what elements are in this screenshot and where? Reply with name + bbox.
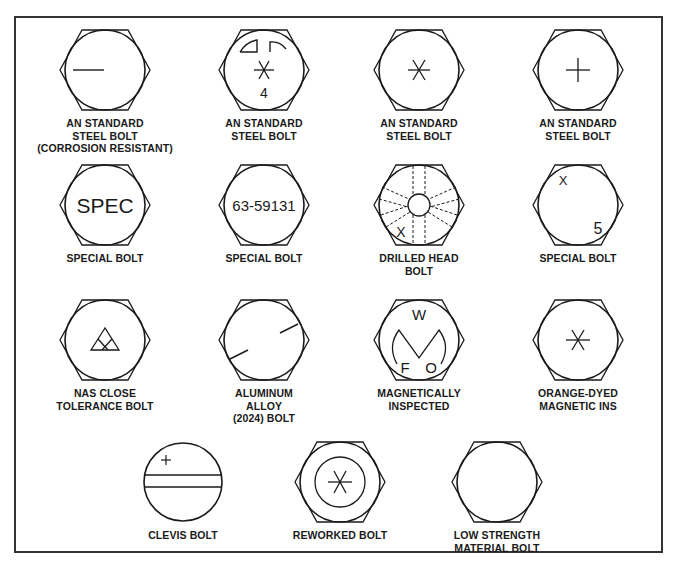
hex-bolt-reworked-icon: [294, 440, 386, 524]
bolt-nas-close-tolerance: NAS CLOSE TOLERANCE BOLT: [25, 298, 185, 412]
bolt-label: SPECIAL BOLT: [498, 252, 658, 265]
svg-text:4: 4: [260, 85, 268, 101]
hex-bolt-x5-icon: X 5: [532, 163, 624, 247]
hex-bolt-asterisk-icon: [532, 298, 624, 382]
bolt-orange-dyed-magnetic: ORANGE-DYED MAGNETIC INS: [498, 298, 658, 412]
bolt-label: NAS CLOSE TOLERANCE BOLT: [25, 387, 185, 412]
hex-bolt-two-dash-icon: [218, 298, 310, 382]
bolt-drilled-head: X DRILLED HEAD BOLT: [339, 163, 499, 277]
bolt-label: CLEVIS BOLT: [103, 529, 263, 542]
svg-text:O: O: [425, 359, 437, 376]
bolt-an-standard-asterisk: AN STANDARD STEEL BOLT: [339, 28, 499, 142]
bolt-reworked: REWORKED BOLT: [260, 440, 420, 542]
bolt-special-x5: X 5 SPECIAL BOLT: [498, 163, 658, 265]
bolt-aluminum-alloy: ALUMINUM ALLOY (2024) BOLT: [184, 298, 344, 425]
hex-bolt-drilled-icon: X: [373, 163, 465, 247]
bolt-label: SPECIAL BOLT: [184, 252, 344, 265]
round-bolt-slot-icon: [137, 440, 229, 524]
hex-bolt-magnetic-icon: W F O: [373, 298, 465, 382]
hex-bolt-triangle-icon: [59, 298, 151, 382]
svg-text:63-59131: 63-59131: [232, 197, 295, 214]
bolt-an-standard-corrosion-resistant: AN STANDARD STEEL BOLT (CORROSION RESIST…: [25, 28, 185, 155]
bolt-label: AN STANDARD STEEL BOLT: [339, 117, 499, 142]
bolt-clevis: CLEVIS BOLT: [103, 440, 263, 542]
bolt-an-standard-cross: AN STANDARD STEEL BOLT: [498, 28, 658, 142]
bolt-label: MAGNETICALLY INSPECTED: [339, 387, 499, 412]
bolt-label: AN STANDARD STEEL BOLT: [184, 117, 344, 142]
hex-bolt-plain-icon: [451, 440, 543, 524]
hex-bolt-number-icon: 63-59131: [218, 163, 310, 247]
svg-text:W: W: [412, 306, 427, 323]
bolt-special-number: 63-59131 SPECIAL BOLT: [184, 163, 344, 265]
bolt-an-standard-raised-dashes: 4 AN STANDARD STEEL BOLT: [184, 28, 344, 142]
bolt-label: SPECIAL BOLT: [25, 252, 185, 265]
svg-text:F: F: [400, 359, 409, 376]
hex-bolt-spec-icon: SPEC: [59, 163, 151, 247]
hex-bolt-asterisk-arcs-icon: 4: [218, 28, 310, 112]
svg-text:X: X: [396, 224, 406, 240]
hex-bolt-asterisk-icon: [373, 28, 465, 112]
bolt-label: REWORKED BOLT: [260, 529, 420, 542]
bolt-label: AN STANDARD STEEL BOLT (CORROSION RESIST…: [25, 117, 185, 155]
svg-text:X: X: [559, 173, 568, 188]
bolt-label: DRILLED HEAD BOLT: [339, 252, 499, 277]
bolt-label: ALUMINUM ALLOY (2024) BOLT: [184, 387, 344, 425]
hex-bolt-cross-icon: [532, 28, 624, 112]
bolt-label: AN STANDARD STEEL BOLT: [498, 117, 658, 142]
svg-text:SPEC: SPEC: [76, 194, 133, 217]
bolt-label: ORANGE-DYED MAGNETIC INS: [498, 387, 658, 412]
svg-text:5: 5: [594, 220, 603, 237]
bolt-low-strength: LOW STRENGTH MATERIAL BOLT: [417, 440, 577, 554]
hex-bolt-dash-icon: [59, 28, 151, 112]
bolt-magnetically-inspected: W F O MAGNETICALLY INSPECTED: [339, 298, 499, 412]
bolt-label: LOW STRENGTH MATERIAL BOLT: [417, 529, 577, 554]
bolt-special-spec: SPEC SPECIAL BOLT: [25, 163, 185, 265]
